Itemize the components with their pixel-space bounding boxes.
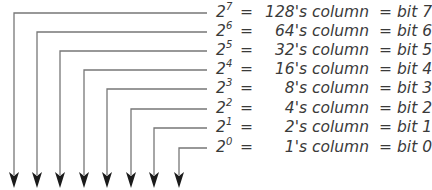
column-label: 4's column	[285, 99, 369, 118]
column-label: 16's column	[275, 60, 369, 79]
power-label: 21	[216, 118, 232, 137]
equals-sign: =	[379, 41, 392, 60]
column-label: 64's column	[275, 22, 369, 41]
column-label: 32's column	[275, 41, 369, 60]
equals-sign: =	[240, 138, 253, 157]
connector-bit-4	[84, 70, 207, 175]
bit-label: bit 4	[397, 60, 432, 79]
bit-label: bit 5	[397, 41, 432, 60]
column-label: 128's column	[265, 3, 369, 22]
connector-bit-6	[37, 32, 207, 175]
column-label: 1's column	[285, 138, 369, 157]
bit-label: bit 2	[397, 99, 432, 118]
bit-label: bit 7	[397, 3, 432, 22]
equals-sign: =	[379, 22, 392, 41]
equals-sign: =	[240, 60, 253, 79]
column-label: 2's column	[285, 118, 369, 137]
column-label: 8's column	[285, 79, 369, 98]
power-label: 20	[216, 138, 232, 157]
equals-sign: =	[240, 99, 253, 118]
equals-sign: =	[379, 60, 392, 79]
equals-sign: =	[379, 3, 392, 22]
power-label: 23	[216, 79, 232, 98]
bit-label: bit 0	[397, 138, 432, 157]
equals-sign: =	[240, 3, 253, 22]
equals-sign: =	[240, 22, 253, 41]
connector-bit-7	[14, 13, 207, 175]
connector-bit-0	[179, 148, 207, 175]
equals-sign: =	[240, 118, 253, 137]
connector-bit-1	[154, 128, 207, 175]
equals-sign: =	[240, 41, 253, 60]
connector-bit-2	[131, 109, 207, 175]
equals-sign: =	[379, 99, 392, 118]
equals-sign: =	[379, 138, 392, 157]
equals-sign: =	[379, 79, 392, 98]
bit-label: bit 6	[397, 22, 432, 41]
equals-sign: =	[379, 118, 392, 137]
equals-sign: =	[240, 79, 253, 98]
connector-bit-3	[107, 89, 207, 175]
bit-label: bit 1	[397, 118, 432, 137]
bit-label: bit 3	[397, 79, 432, 98]
